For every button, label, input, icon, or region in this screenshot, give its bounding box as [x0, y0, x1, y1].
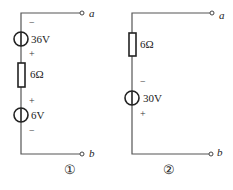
terminal-b-label: b	[217, 146, 223, 158]
source1-bottom-sign: +	[29, 48, 35, 59]
circuit-diagrams: − 36V + 6Ω + 6V − a b ①	[0, 0, 233, 190]
voltage-source-6v: + 6V −	[14, 95, 45, 136]
resistor-6ohm: 6Ω	[18, 63, 44, 87]
circuit-2: 6Ω − 30V + a b ②	[125, 9, 225, 177]
terminal-b-label: b	[89, 147, 95, 159]
source1-value: 36V	[31, 33, 50, 45]
terminal-a-label: a	[219, 9, 225, 21]
source3-bottom-sign: +	[140, 108, 146, 119]
resistor-icon	[129, 33, 136, 56]
voltage-source-30v: − 30V +	[125, 76, 162, 119]
resistor2-value: 6Ω	[140, 38, 154, 50]
circuit-2-top-wire	[132, 13, 210, 33]
terminal-a-label: a	[89, 7, 95, 19]
circuit-1-caption: ①	[64, 162, 76, 177]
voltage-source-36v: − 36V +	[14, 17, 50, 59]
source2-top-sign: +	[29, 95, 35, 106]
terminal-b-icon	[80, 152, 84, 156]
terminal-a-icon	[210, 11, 214, 15]
circuit-1: − 36V + 6Ω + 6V − a b ①	[14, 7, 95, 177]
source3-top-sign: −	[140, 76, 146, 87]
source1-top-sign: −	[29, 17, 35, 28]
terminal-a-icon	[80, 11, 84, 15]
source2-value: 6V	[31, 109, 45, 121]
resistor-icon	[18, 63, 25, 87]
resistor1-value: 6Ω	[30, 68, 44, 80]
circuit-2-caption: ②	[163, 162, 175, 177]
terminal-b-icon	[209, 152, 213, 156]
resistor-6ohm: 6Ω	[129, 33, 154, 56]
source2-bottom-sign: −	[29, 125, 35, 136]
source3-value: 30V	[143, 92, 162, 104]
